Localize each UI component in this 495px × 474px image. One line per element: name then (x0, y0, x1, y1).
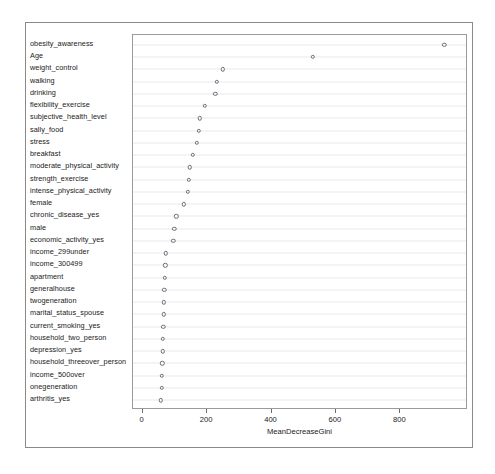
x-axis-tick (142, 409, 143, 413)
data-point (195, 141, 199, 145)
data-point (442, 43, 446, 47)
y-axis-label: income_500over (30, 371, 85, 379)
gridline (133, 240, 466, 241)
gridline (133, 363, 466, 364)
y-axis-label: walking (30, 77, 55, 85)
gridline (133, 81, 466, 82)
data-point (198, 116, 202, 120)
y-axis-label: onegeneration (30, 383, 77, 391)
gridline (133, 228, 466, 229)
y-axis-label: marital_status_spouse (30, 309, 104, 317)
data-point (162, 275, 166, 279)
data-point (174, 214, 178, 218)
gridline (133, 142, 466, 143)
gridline (133, 44, 466, 45)
data-point (171, 239, 175, 243)
data-point (160, 373, 164, 377)
y-axis-label: weight_control (30, 64, 78, 72)
y-axis-label: generalhouse (30, 285, 75, 293)
y-axis-label: drinking (30, 89, 56, 97)
x-axis-title: MeanDecreaseGini (132, 427, 467, 436)
gridline (133, 326, 466, 327)
gridline (133, 57, 466, 58)
data-point (311, 55, 315, 59)
gridline (133, 106, 466, 107)
data-point (161, 337, 165, 341)
y-axis-label: intense_physical_activity (30, 187, 112, 195)
gridline (133, 289, 466, 290)
data-point (203, 104, 207, 108)
gridline (133, 191, 466, 192)
y-axis-label: breakfast (30, 150, 60, 158)
y-axis-label: economic_activity_yes (30, 236, 104, 244)
x-axis-tick (399, 409, 400, 413)
y-axis-label: twogeneration (30, 297, 77, 305)
y-axis-label: subjective_health_level (30, 113, 107, 121)
data-point (182, 202, 186, 206)
y-axis-label: household_threeover_person (30, 358, 126, 366)
plot-panel (132, 34, 467, 409)
data-point (159, 398, 163, 402)
y-axis-label: apartment (30, 273, 63, 281)
x-axis-tick-label: 600 (329, 415, 342, 424)
variable-importance-plot: obesity_awarenessAgeweight_controlwalkin… (25, 22, 473, 448)
gridline (133, 130, 466, 131)
gridline (133, 93, 466, 94)
data-point (186, 190, 190, 194)
data-point (190, 153, 194, 157)
gridline (133, 118, 466, 119)
data-point (172, 226, 176, 230)
y-axis-label: chronic_disease_yes (30, 211, 99, 219)
x-axis-tick-label: 400 (264, 415, 277, 424)
y-axis-label: stress (30, 138, 50, 146)
data-point (187, 177, 191, 181)
y-axis-label: current_smoking_yes (30, 322, 100, 330)
gridline (133, 265, 466, 266)
gridline (133, 338, 466, 339)
gridline (133, 302, 466, 303)
y-axis-label: Age (30, 52, 43, 60)
gridline (133, 253, 466, 254)
x-axis: MeanDecreaseGini 0200400600800 (132, 409, 467, 449)
gridline (133, 314, 466, 315)
gridline (133, 400, 466, 401)
data-point (215, 79, 219, 83)
y-axis-label: household_two_person (30, 334, 106, 342)
data-point (197, 128, 201, 132)
y-axis-label: moderate_physical_activity (30, 162, 119, 170)
gridline (133, 351, 466, 352)
gridline (133, 387, 466, 388)
data-point (187, 165, 191, 169)
y-axis-label: strength_exercise (30, 175, 88, 183)
data-point (163, 263, 167, 267)
x-axis-tick (335, 409, 336, 413)
data-point (213, 92, 217, 96)
data-point (160, 349, 164, 353)
data-point (159, 386, 163, 390)
data-point (221, 67, 225, 71)
x-axis-tick (206, 409, 207, 413)
gridline (133, 179, 466, 180)
gridline (133, 155, 466, 156)
gridline (133, 167, 466, 168)
x-axis-tick-label: 0 (140, 415, 144, 424)
x-axis-tick (271, 409, 272, 413)
y-axis-label: flexibility_exercise (30, 101, 90, 109)
gridline (133, 216, 466, 217)
x-axis-tick-label: 200 (200, 415, 213, 424)
y-axis-label: arthritis_yes (30, 395, 70, 403)
data-point (164, 251, 168, 255)
data-point (160, 361, 164, 365)
y-axis-label: sally_food (30, 126, 63, 134)
gridline (133, 277, 466, 278)
y-axis-label: obesity_awareness (30, 40, 93, 48)
data-point (162, 288, 166, 292)
y-axis-label: depression_yes (30, 346, 82, 354)
y-axis-label: income_300499 (30, 260, 83, 268)
data-point (161, 312, 165, 316)
y-axis-label: income_299under (30, 248, 89, 256)
data-point (162, 300, 166, 304)
y-axis-label: female (30, 199, 52, 207)
y-axis-labels: obesity_awarenessAgeweight_controlwalkin… (26, 23, 131, 449)
gridline (133, 375, 466, 376)
